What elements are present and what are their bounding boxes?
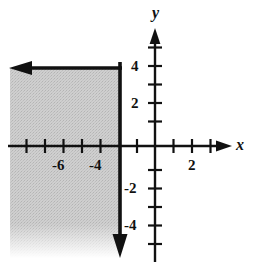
x-tick-label-2: 2 <box>188 158 196 173</box>
y-tick-label--2: -2 <box>124 181 137 196</box>
y-tick-label--4: -4 <box>124 218 137 233</box>
graph-figure: -6 -4 2 4 2 -2 -4 x y <box>0 0 257 267</box>
y-axis-label: y <box>152 5 159 21</box>
solution-region <box>10 68 120 258</box>
x-axis-label: x <box>236 137 244 153</box>
y-tick-label-4: 4 <box>131 59 139 74</box>
x-tick-label--4: -4 <box>89 158 102 173</box>
y-tick-label-2: 2 <box>131 96 139 111</box>
x-tick-label--6: -6 <box>52 158 65 173</box>
